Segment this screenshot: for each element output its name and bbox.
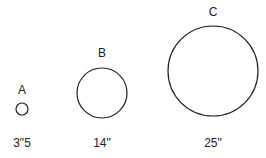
size-a: 3"5	[13, 136, 31, 150]
label-a: A	[18, 83, 26, 97]
circle-a	[16, 103, 28, 115]
circles-diagram	[0, 0, 266, 158]
circle-b	[77, 68, 127, 118]
circle-c	[168, 26, 258, 116]
label-c: C	[209, 5, 218, 19]
size-b: 14"	[93, 136, 111, 150]
label-b: B	[98, 46, 106, 60]
size-c: 25"	[204, 136, 222, 150]
